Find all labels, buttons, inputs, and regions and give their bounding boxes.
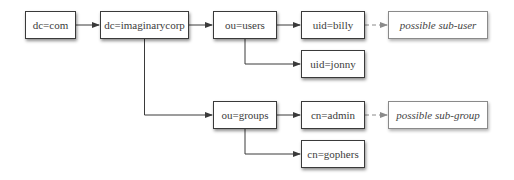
node-uid-jonny: uid=jonny bbox=[301, 50, 365, 78]
node-label: possible sub-user bbox=[400, 19, 477, 31]
node-label: ou=groups bbox=[221, 109, 268, 121]
ldap-tree-diagram: dc=com dc=imaginarycorp ou=users uid=bil… bbox=[0, 0, 514, 180]
node-dc-imaginarycorp: dc=imaginarycorp bbox=[100, 11, 189, 39]
node-cn-admin: cn=admin bbox=[301, 101, 365, 129]
edge-arrow bbox=[245, 129, 300, 154]
node-label: ou=users bbox=[225, 19, 265, 31]
node-label: dc=imaginarycorp bbox=[104, 19, 185, 31]
node-dc-com: dc=com bbox=[25, 11, 76, 39]
node-label: uid=billy bbox=[313, 19, 353, 31]
node-label: possible sub-group bbox=[396, 109, 480, 121]
edge-arrow bbox=[245, 39, 300, 64]
node-ou-users: ou=users bbox=[213, 11, 277, 39]
node-label: cn=admin bbox=[311, 109, 355, 121]
edge-arrow bbox=[145, 39, 213, 115]
node-ou-groups: ou=groups bbox=[213, 101, 277, 129]
node-label: uid=jonny bbox=[310, 58, 355, 70]
node-possible-sub-group: possible sub-group bbox=[388, 101, 488, 129]
node-uid-billy: uid=billy bbox=[301, 11, 365, 39]
node-label: cn=gophers bbox=[307, 148, 358, 160]
node-cn-gophers: cn=gophers bbox=[301, 140, 365, 168]
node-label: dc=com bbox=[33, 19, 69, 31]
node-possible-sub-user: possible sub-user bbox=[388, 11, 488, 39]
